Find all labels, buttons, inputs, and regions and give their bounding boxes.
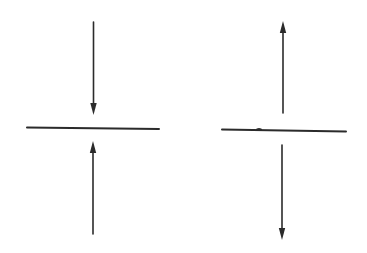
plane-line bbox=[27, 128, 159, 130]
bottom-arrow-up-icon bbox=[90, 141, 96, 234]
top-arrow-down-icon bbox=[90, 22, 96, 115]
tension-figure bbox=[222, 21, 346, 240]
bottom-arrow-down-icon bbox=[279, 145, 285, 240]
plane-mark bbox=[256, 128, 262, 131]
plane-line bbox=[222, 130, 346, 132]
top-arrow-up-icon bbox=[280, 21, 286, 113]
compression-figure bbox=[27, 22, 159, 234]
stress-diagram bbox=[0, 0, 367, 253]
